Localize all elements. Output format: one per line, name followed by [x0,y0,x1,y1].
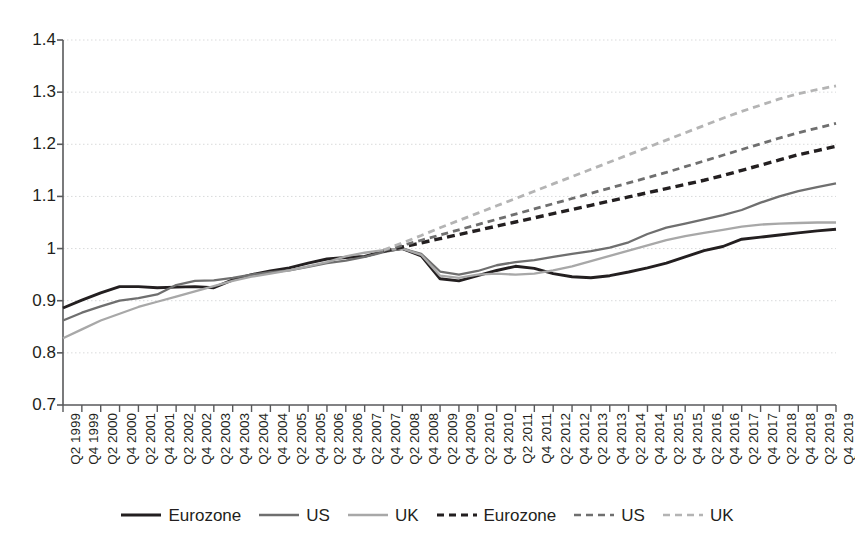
x-axis-label: Q2 2004 [257,413,271,493]
x-axis-label: Q4 2001 [163,413,177,493]
x-axis-label: Q2 2003 [219,413,233,493]
x-axis-labels: Q2 1999Q4 1999Q2 2000Q4 2000Q2 2001Q4 20… [0,0,855,545]
legend-label: US [306,507,330,524]
x-axis-label: Q4 2015 [691,413,705,493]
x-axis-label: Q2 2002 [182,413,196,493]
x-axis-label: Q4 1999 [87,413,101,493]
x-axis-label: Q4 2012 [578,413,592,493]
x-axis-label: Q4 2008 [427,413,441,493]
x-axis-label: Q2 1999 [69,413,83,493]
x-axis-label: Q2 2012 [559,413,573,493]
legend-item-eurozone-dashed[interactable]: Eurozone [437,507,557,524]
legend-swatch-icon [259,508,299,522]
x-axis-label: Q4 2013 [615,413,629,493]
legend-swatch-icon [574,508,614,522]
x-axis-label: Q2 2013 [596,413,610,493]
chart-legend: EurozoneUSUKEurozoneUSUK [0,500,855,530]
legend-swatch-icon [663,508,703,522]
x-axis-label: Q4 2006 [351,413,365,493]
x-axis-label: Q4 2004 [276,413,290,493]
legend-label: Eurozone [484,507,557,524]
legend-item-uk-dashed[interactable]: UK [663,507,734,524]
x-axis-label: Q4 2011 [540,413,554,493]
legend-label: UK [710,507,734,524]
x-axis-label: Q2 2007 [370,413,384,493]
x-axis-label: Q4 2016 [728,413,742,493]
x-axis-label: Q4 2019 [842,413,855,493]
legend-label: Eurozone [168,507,241,524]
x-axis-label: Q4 2018 [804,413,818,493]
x-axis-label: Q2 2005 [295,413,309,493]
legend-label: US [621,507,645,524]
legend-swatch-icon [121,508,161,522]
x-axis-label: Q4 2005 [314,413,328,493]
x-axis-label: Q2 2016 [710,413,724,493]
x-axis-label: Q2 2011 [521,413,535,493]
x-axis-label: Q2 2010 [483,413,497,493]
x-axis-label: Q2 2018 [785,413,799,493]
x-axis-label: Q4 2002 [200,413,214,493]
legend-item-uk-solid[interactable]: UK [348,507,419,524]
chart-container: 1.41.31.21.110.90.80.7 Q2 1999Q4 1999Q2 … [0,0,855,545]
legend-item-us-solid[interactable]: US [259,507,330,524]
x-axis-label: Q4 2007 [389,413,403,493]
legend-item-us-dashed[interactable]: US [574,507,645,524]
x-axis-label: Q2 2014 [634,413,648,493]
x-axis-label: Q2 2015 [672,413,686,493]
legend-swatch-icon [437,508,477,522]
x-axis-label: Q4 2014 [653,413,667,493]
x-axis-label: Q2 2009 [446,413,460,493]
x-axis-label: Q2 2017 [747,413,761,493]
x-axis-label: Q4 2003 [238,413,252,493]
x-axis-label: Q4 2010 [502,413,516,493]
x-axis-label: Q4 2000 [125,413,139,493]
legend-swatch-icon [348,508,388,522]
legend-item-eurozone-solid[interactable]: Eurozone [121,507,241,524]
x-axis-label: Q4 2009 [464,413,478,493]
x-axis-label: Q2 2000 [106,413,120,493]
x-axis-label: Q2 2001 [144,413,158,493]
x-axis-label: Q2 2019 [823,413,837,493]
x-axis-label: Q4 2017 [766,413,780,493]
legend-label: UK [395,507,419,524]
x-axis-label: Q2 2008 [408,413,422,493]
x-axis-label: Q2 2006 [332,413,346,493]
